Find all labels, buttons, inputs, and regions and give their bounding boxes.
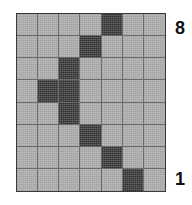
grid-cell <box>17 58 38 80</box>
grid-cell <box>38 147 59 169</box>
grid-cell-shaded <box>80 36 101 58</box>
grid-cell <box>144 125 165 147</box>
grid-cell <box>59 147 80 169</box>
grid-cell <box>144 80 165 102</box>
grid-cell <box>144 103 165 125</box>
grid-cell <box>59 169 80 191</box>
grid-cell <box>17 125 38 147</box>
row-label-bottom: 1 <box>175 170 185 188</box>
grid-cell <box>102 36 123 58</box>
grid-cell-shaded <box>59 103 80 125</box>
grid-cell <box>123 36 144 58</box>
grid-cell <box>59 14 80 36</box>
grid-cell-shaded <box>123 169 144 191</box>
cell-grid <box>17 14 165 191</box>
grid-cell <box>123 103 144 125</box>
grid-cell <box>38 58 59 80</box>
grid-cell <box>80 169 101 191</box>
grid-cell <box>102 103 123 125</box>
grid-cell <box>80 58 101 80</box>
grid-cell <box>123 58 144 80</box>
grid-cell <box>123 147 144 169</box>
grid-cell <box>38 169 59 191</box>
grid-cell <box>123 14 144 36</box>
grid-cell-shaded <box>38 80 59 102</box>
grid-cell <box>59 36 80 58</box>
grid-cell <box>102 169 123 191</box>
grid-cell <box>17 103 38 125</box>
row-label-top: 8 <box>175 19 185 37</box>
grid-cell <box>59 125 80 147</box>
grid-cell <box>80 14 101 36</box>
grid-cell <box>38 103 59 125</box>
grid-cell <box>17 14 38 36</box>
grid-cell <box>123 125 144 147</box>
grid-cell-shaded <box>80 125 101 147</box>
grid-cell <box>144 36 165 58</box>
grid-cell <box>17 80 38 102</box>
grid-cell <box>102 58 123 80</box>
grid-cell <box>38 36 59 58</box>
grid-cell <box>102 125 123 147</box>
grid-cell <box>17 169 38 191</box>
grid-cell <box>144 169 165 191</box>
grid-cell <box>102 80 123 102</box>
grid-cell-shaded <box>102 14 123 36</box>
grid-cell <box>17 36 38 58</box>
grid-cell-shaded <box>102 147 123 169</box>
grid-cell <box>38 125 59 147</box>
lattice-grid-figure: 8 1 <box>0 0 192 205</box>
grid-cell <box>144 147 165 169</box>
grid-cell-shaded <box>59 80 80 102</box>
grid-cell-shaded <box>59 58 80 80</box>
grid-cell <box>80 103 101 125</box>
grid-container <box>16 13 166 192</box>
grid-cell <box>123 80 144 102</box>
grid-cell <box>17 147 38 169</box>
grid-cell <box>144 58 165 80</box>
grid-cell <box>144 14 165 36</box>
grid-cell <box>80 147 101 169</box>
grid-cell <box>38 14 59 36</box>
grid-cell <box>80 80 101 102</box>
